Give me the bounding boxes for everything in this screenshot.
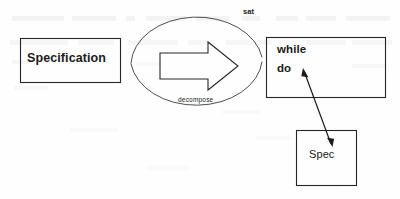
refinement-arrow-line (304, 71, 331, 144)
do-keyword-label: do (277, 62, 291, 74)
while-keyword-label: while (277, 43, 306, 55)
decomposition-ellipse-top-arc (131, 17, 262, 63)
refinement-arrowhead-down (327, 138, 334, 147)
spec-box-label: Spec (309, 148, 334, 160)
diagram-canvas: Specification while do Spec sat decompos… (0, 0, 400, 199)
decompose-annotation-label: decompose (178, 96, 213, 103)
refinement-arrowhead-up (301, 68, 308, 77)
transform-block-arrow (160, 42, 238, 90)
sat-annotation-label: sat (243, 7, 254, 16)
specification-box-label: Specification (27, 51, 106, 65)
